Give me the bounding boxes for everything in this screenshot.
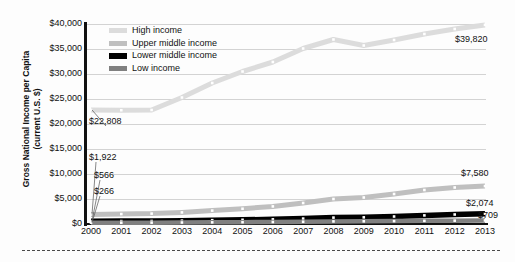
legend-item: High income	[109, 25, 217, 36]
callout-low-end: $709	[478, 210, 498, 220]
chart-figure: Gross National Income per Capita (curren…	[0, 0, 515, 262]
gridline	[86, 199, 486, 200]
x-axis-tick-label: 2004	[202, 226, 222, 236]
legend-item-label: Upper middle income	[132, 38, 217, 49]
legend-item: Low income	[109, 63, 217, 74]
gridline	[86, 124, 486, 125]
callout-low-start: $266	[94, 186, 114, 196]
callout-high-end: $39,820	[455, 34, 488, 44]
x-axis-tick-label: 2001	[111, 226, 131, 236]
chart-legend: High incomeUpper middle incomeLower midd…	[109, 25, 217, 75]
y-axis-tick-label: $15,000	[18, 143, 82, 153]
legend-item-label: High income	[132, 25, 182, 36]
y-axis-tick-label: $40,000	[18, 18, 82, 28]
callout-lower-end: $2,074	[466, 198, 494, 208]
x-axis-tick-label: 2012	[445, 226, 465, 236]
legend-item-label: Low income	[132, 63, 180, 74]
y-axis-tick-labels: $40,000$35,000$30,000$25,000$20,000$15,0…	[10, 0, 82, 262]
legend-item: Upper middle income	[109, 38, 217, 49]
bottom-dashed-divider	[22, 250, 500, 251]
x-axis-tick-label: 2002	[142, 226, 162, 236]
x-axis-tick-label: 2011	[415, 226, 434, 236]
y-axis-tick-label: $25,000	[18, 93, 82, 103]
x-axis-tick-label: 2009	[354, 226, 374, 236]
x-axis-tick-label: 2005	[233, 226, 253, 236]
gridline	[86, 174, 486, 175]
legend-item-label: Lower middle income	[132, 50, 217, 61]
y-axis-tick-label: $20,000	[18, 118, 82, 128]
callout-lower-start: $566	[94, 170, 114, 180]
y-axis-line	[84, 22, 87, 226]
x-axis-tick-label: 2007	[293, 226, 313, 236]
x-axis-tick-label: 2008	[323, 226, 343, 236]
x-axis-line	[84, 223, 488, 225]
x-axis-tick-label: 2010	[384, 226, 404, 236]
x-axis-tick-label: 2000	[81, 226, 101, 236]
legend-swatch-icon	[109, 53, 127, 59]
y-axis-tick-label: $10,000	[18, 168, 82, 178]
legend-swatch-icon	[109, 66, 127, 71]
legend-swatch-icon	[109, 41, 127, 46]
legend-item: Lower middle income	[109, 50, 217, 61]
x-axis-tick-label: 2006	[263, 226, 283, 236]
callout-high-start: $22,808	[89, 116, 122, 126]
x-axis-tick-labels: 2000200120022003200420052006200720082009…	[86, 226, 486, 242]
gridline	[86, 149, 486, 150]
y-axis-tick-label: $5,000	[18, 193, 82, 203]
y-axis-tick-label: $30,000	[18, 68, 82, 78]
callout-upper-end: $7,580	[461, 168, 489, 178]
legend-swatch-icon	[109, 28, 127, 33]
y-axis-tick-label: $0	[18, 218, 82, 228]
callout-upper-start: $1,922	[89, 152, 117, 162]
x-axis-tick-label: 2003	[172, 226, 192, 236]
x-axis-tick-label: 2013	[475, 226, 495, 236]
y-axis-tick-label: $35,000	[18, 43, 82, 53]
gridline	[86, 99, 486, 100]
